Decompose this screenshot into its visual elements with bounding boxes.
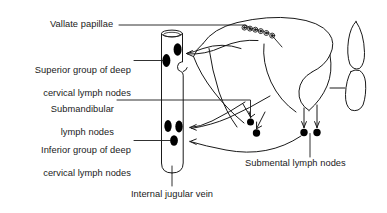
label-internal-jugular-vein: Internal jugular vein (106, 189, 238, 200)
lymph-node-inferior-deep-cervical-lower (170, 135, 178, 145)
label-submental-lymph-nodes: Submental lymph nodes (245, 158, 346, 169)
figure-canvas: Vallate papillae Superior group of deep … (0, 0, 387, 213)
epiglottis-outline (345, 22, 365, 111)
lymph-node-submental-left (300, 129, 307, 136)
label-inferior-deep-cervical: Inferior group of deep cervical lymph no… (0, 134, 131, 191)
label-inferior-deep-cervical-line1: Inferior group of deep (41, 145, 131, 155)
label-superior-deep-cervical-line1: Superior group of deep (35, 65, 131, 75)
lymph-node-submandibular-upper (247, 119, 254, 126)
label-submandibular-line1: Submandibular (51, 104, 114, 114)
lymph-node-submental-right (313, 129, 320, 136)
leader-vallate-papillae (119, 25, 252, 30)
lymph-node-superior-deep-cervical-left (162, 54, 170, 67)
lymph-node-inferior-deep-cervical-right (175, 121, 182, 133)
label-vallate-papillae: Vallate papillae (50, 19, 113, 30)
tongue-outline (194, 17, 346, 127)
lymph-node-inferior-deep-cervical-left (164, 120, 171, 132)
label-inferior-deep-cervical-line2: cervical lymph nodes (43, 168, 131, 178)
vallate-papillae-group (242, 25, 282, 47)
lymph-node-submandibular-lower (253, 129, 260, 136)
leader-submandibular (117, 100, 251, 118)
lymph-node-superior-deep-cervical-upper (174, 43, 182, 55)
